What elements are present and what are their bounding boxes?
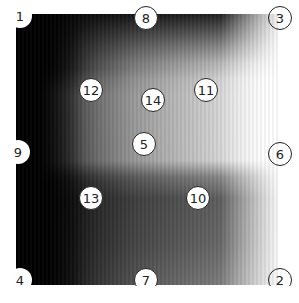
marker-1: 1 (8, 4, 32, 28)
marker-10: 10 (186, 186, 210, 210)
bottom-margin (0, 286, 299, 303)
marker-8: 8 (134, 6, 158, 30)
marker-11: 11 (194, 78, 218, 102)
marker-3: 3 (268, 6, 292, 30)
marker-9: 9 (6, 140, 30, 164)
marker-5: 5 (132, 132, 156, 156)
marker-6: 6 (268, 142, 292, 166)
marker-13: 13 (79, 186, 103, 210)
marker-14: 14 (141, 88, 165, 112)
marker-12: 12 (79, 78, 103, 102)
